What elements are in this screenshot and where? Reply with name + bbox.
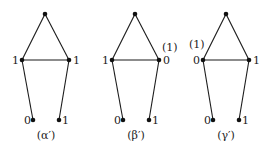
annotation-label: (1) [162,41,178,54]
node-label-right: 0 [163,54,170,67]
node-label-left: 0 [193,54,200,67]
node-bottom-left [31,118,36,123]
node-bottom-right [147,118,152,123]
node-right [157,58,162,63]
edge-left-bottom_left [22,60,33,120]
edge-left-bottom_left [112,60,123,120]
node-bottom-left [121,118,126,123]
node-label-left: 1 [102,54,109,67]
edge-top-left [22,14,45,60]
graph-alpha: 1101(α′) [12,12,80,142]
node-top [43,12,48,17]
node-label-bottom-right: 1 [152,114,159,127]
graph-beta: 1001(1)(β′) [102,12,178,142]
edge-right-bottom_right [239,60,249,120]
node-label-bottom-right: 1 [62,114,69,127]
edge-top-left [112,14,135,60]
node-bottom-left [211,118,216,123]
node-left [110,58,115,63]
node-left [20,58,25,63]
edge-left-bottom_left [203,60,213,120]
node-right [247,58,252,63]
node-label-bottom-right: 1 [242,114,249,127]
node-left [201,58,206,63]
node-top [224,12,229,17]
graph-gamma: 0101(1)(γ′) [189,12,260,142]
node-label-left: 1 [12,54,19,67]
node-right [67,58,72,63]
edge-top-right [135,14,159,60]
node-label-bottom-left: 0 [24,114,31,127]
graph-caption: (α′) [37,129,56,142]
node-bottom-right [237,118,242,123]
edge-right-bottom_right [149,60,159,120]
node-bottom-right [57,118,62,123]
graph-caption: (γ′) [217,129,235,142]
edge-top-left [203,14,226,60]
graph-caption: (β′) [127,129,144,142]
node-label-bottom-left: 0 [114,114,121,127]
annotation-label: (1) [189,38,205,51]
node-top [133,12,138,17]
node-label-right: 1 [73,54,80,67]
edge-top-right [226,14,249,60]
edge-top-right [45,14,69,60]
node-label-right: 1 [253,54,260,67]
graph-diagram: 1101(α′)1001(1)(β′)0101(1)(γ′) [0,0,273,147]
edge-right-bottom_right [59,60,69,120]
node-label-bottom-left: 0 [204,114,211,127]
